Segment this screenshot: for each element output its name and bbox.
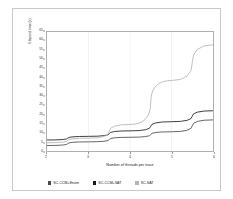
y-tick-mark: [43, 49, 45, 50]
y-axis-ticks: 05101520253035404550556065: [25, 31, 45, 152]
y-tick-mark: [43, 105, 45, 106]
series-lines: [47, 32, 213, 151]
y-tick-mark: [43, 96, 45, 97]
x-tick-mark: [46, 152, 47, 154]
legend-item[interactable]: SC-CCM+Enum: [48, 181, 79, 185]
y-tick-mark: [43, 68, 45, 69]
x-tick-mark: [172, 152, 173, 154]
x-tick-mark: [88, 152, 89, 154]
y-tick-mark: [43, 114, 45, 115]
plot-area: [46, 31, 214, 152]
y-tick-mark: [43, 40, 45, 41]
square-marker-icon: [93, 181, 96, 184]
figure-frame: Elapsed time (s) 05101520253035404550556…: [12, 8, 221, 191]
y-tick-mark: [43, 77, 45, 78]
x-axis-title: Number of threads per trace: [46, 163, 214, 168]
series-line: [47, 120, 213, 146]
chart-legend: SC-CCM+EnumSC-CCM+SATSC-SAT: [46, 178, 214, 188]
x-tick-label: 2: [45, 156, 47, 159]
y-tick-mark: [43, 86, 45, 87]
y-tick-mark: [43, 124, 45, 125]
y-tick-mark: [43, 133, 45, 134]
legend-item[interactable]: SC-SAT: [135, 181, 153, 185]
x-tick-mark: [130, 152, 131, 154]
x-tick-label: 5: [171, 156, 173, 159]
x-tick-label: 3: [87, 156, 89, 159]
y-tick-mark: [43, 142, 45, 143]
chart-figure: Elapsed time (s) 05101520253035404550556…: [0, 0, 233, 199]
x-tick-label: 6: [213, 156, 215, 159]
legend-label: SC-CCM+SAT: [98, 181, 121, 185]
square-marker-icon: [48, 181, 51, 184]
x-tick-mark: [214, 152, 215, 154]
legend-label: SC-SAT: [141, 181, 154, 185]
square-marker-icon: [135, 181, 138, 184]
y-tick-mark: [43, 58, 45, 59]
y-tick-mark: [43, 152, 45, 153]
x-tick-label: 4: [129, 156, 131, 159]
legend-label: SC-CCM+Enum: [53, 181, 79, 185]
x-axis-ticks: 23456: [46, 152, 214, 162]
legend-item[interactable]: SC-CCM+SAT: [93, 181, 121, 185]
series-line: [47, 111, 213, 140]
series-line: [47, 45, 213, 143]
y-tick-mark: [43, 31, 45, 32]
